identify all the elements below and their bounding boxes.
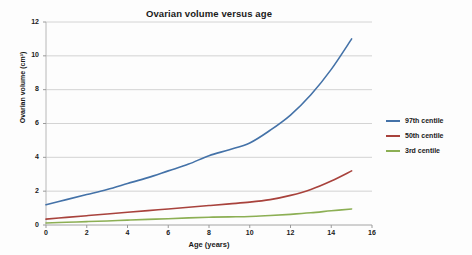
chart-legend: 97th centile50th centile3rd centile [386,114,470,159]
y-tick-label: 12 [21,18,39,25]
y-tick-label: 6 [21,119,39,126]
x-tick-label: 12 [282,229,300,236]
x-tick-label: 8 [200,229,218,236]
x-tick-label: 14 [322,229,340,236]
x-tick-label: 0 [37,229,55,236]
x-tick-label: 6 [159,229,177,236]
legend-item[interactable]: 97th centile [386,114,470,127]
x-axis-title: Age (years) [46,240,372,249]
legend-line-swatch [386,150,400,152]
series-line [46,39,352,205]
y-tick-label: 10 [21,51,39,58]
legend-item[interactable]: 3rd centile [386,144,470,157]
legend-item-label: 3rd centile [405,147,440,154]
legend-line-swatch [386,120,400,122]
x-tick-label: 2 [78,229,96,236]
y-tick-label: 4 [21,153,39,160]
legend-item[interactable]: 50th centile [386,129,470,142]
series-line [46,171,352,219]
data-series-group [46,39,352,223]
x-tick-label: 4 [119,229,137,236]
gridlines [46,22,372,225]
legend-item-label: 50th centile [405,132,444,139]
y-tick-label: 8 [21,85,39,92]
x-tick-label: 16 [363,229,381,236]
y-tick-label: 2 [21,187,39,194]
chart-container: Ovarian volume versus age Ovarian volume… [0,0,472,255]
x-tick-label: 10 [241,229,259,236]
legend-item-label: 97th centile [405,117,444,124]
legend-line-swatch [386,135,400,137]
y-tick-label: 0 [21,221,39,228]
